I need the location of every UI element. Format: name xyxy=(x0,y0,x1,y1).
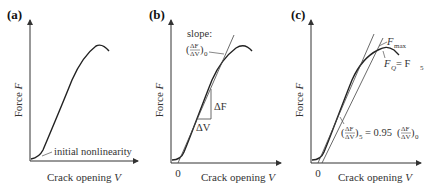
delta-f-label: ΔF xyxy=(214,101,227,112)
svg-text:5: 5 xyxy=(359,133,363,141)
y-axis-label: Force F xyxy=(153,82,165,117)
svg-text:= 0.95: = 0.95 xyxy=(365,127,392,138)
x-axis-label: Crack opening V xyxy=(201,171,276,183)
fq-label: F Q = F 5 xyxy=(383,58,424,72)
y-axis-label: Force F xyxy=(12,82,24,117)
slope-label: slope: xyxy=(187,28,212,39)
criterion-formula: ( ΔF ΔV ) 5 = 0.95 ( ΔF ΔV ) 0 xyxy=(341,125,419,141)
panel-c-label: (c) xyxy=(291,7,305,22)
svg-text:ΔF: ΔF xyxy=(190,42,199,50)
svg-text:ΔV: ΔV xyxy=(345,133,355,141)
panel-b: (b) Force F 0 Crack opening V ΔF ΔV slop… xyxy=(149,7,281,183)
delta-v-label: ΔV xyxy=(196,122,211,133)
svg-text:ΔF: ΔF xyxy=(401,125,410,133)
svg-text:= F: = F xyxy=(396,58,411,69)
initial-nonlinearity-label: initial nonlinearity xyxy=(54,146,133,157)
x-axis-label: Crack opening V xyxy=(47,171,122,183)
y-axis-label: Force F xyxy=(293,82,305,117)
figure: (a) Force F Crack opening V initial nonl… xyxy=(0,0,437,189)
secant-95-line xyxy=(322,38,383,163)
initial-tangent-line xyxy=(318,34,374,163)
svg-text:ΔF: ΔF xyxy=(345,125,354,133)
svg-text:5: 5 xyxy=(420,64,424,72)
panel-a: (a) Force F Crack opening V initial nonl… xyxy=(7,7,138,183)
origin-tick: 0 xyxy=(315,167,321,179)
svg-text:ΔV: ΔV xyxy=(190,50,200,58)
svg-text:F: F xyxy=(383,58,391,69)
x-axis-label: Crack opening V xyxy=(338,171,413,183)
fq-leader xyxy=(383,51,385,58)
criterion-leader xyxy=(340,117,344,124)
panel-c: (c) Force F 0 Crack opening V F max F Q … xyxy=(291,7,424,183)
panel-a-label: (a) xyxy=(7,7,22,22)
svg-text:ΔV: ΔV xyxy=(401,133,411,141)
origin-tick: 0 xyxy=(175,167,181,179)
svg-text:Force F: Force F xyxy=(293,82,305,117)
svg-text:Force F: Force F xyxy=(153,82,165,117)
panel-b-label: (b) xyxy=(149,7,165,22)
svg-text:Force F: Force F xyxy=(12,82,24,117)
svg-text:0: 0 xyxy=(204,50,208,58)
annotation-leader xyxy=(42,152,52,156)
svg-text:max: max xyxy=(394,42,407,50)
slope-formula: ( ΔF ΔV ) 0 xyxy=(186,42,208,58)
slope-leader xyxy=(209,52,224,54)
svg-text:0: 0 xyxy=(415,133,419,141)
force-curve xyxy=(31,45,109,159)
force-curve xyxy=(172,46,252,160)
svg-text:F: F xyxy=(386,36,394,47)
